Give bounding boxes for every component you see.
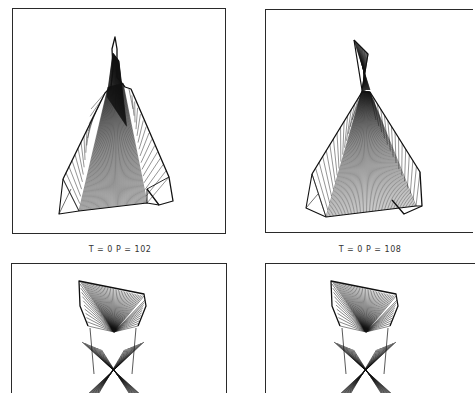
panel-bottom-right <box>265 263 475 393</box>
wireframe-plot-top-right <box>266 10 473 233</box>
wireframe-plot-bottom-left <box>12 264 227 393</box>
caption-top-left: T = 0 P = 102 <box>20 245 220 254</box>
panel-bottom-left <box>11 263 227 393</box>
wireframe-plot-top-left <box>13 9 226 234</box>
caption-top-right: T = 0 P = 108 <box>270 245 470 254</box>
wireframe-plot-bottom-right <box>266 264 475 393</box>
panel-top-right <box>265 9 473 233</box>
panel-top-left <box>12 8 226 234</box>
